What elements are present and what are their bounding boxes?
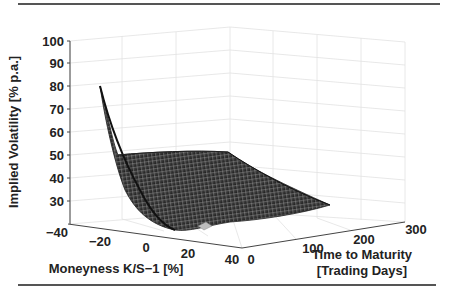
- y-axis-label-line1: Time to Maturity: [312, 247, 413, 262]
- z-tick-40: 40: [50, 171, 64, 186]
- x-tick-m20: −20: [89, 234, 111, 249]
- z-tick-90: 90: [50, 56, 64, 71]
- y-axis-label-line2: [Trading Days]: [317, 263, 407, 278]
- z-tick-30: 30: [50, 194, 64, 209]
- z-tick-100: 100: [42, 34, 64, 49]
- x-axis-label: Moneyness K/S−1 [%]: [49, 261, 184, 276]
- z-tick-60: 60: [50, 125, 64, 140]
- y-tick-300: 300: [405, 222, 427, 237]
- y-tick-0: 0: [247, 252, 254, 267]
- z-tick-70: 70: [50, 102, 64, 117]
- x-tick-40: 40: [225, 252, 239, 267]
- z-tick-50: 50: [50, 148, 64, 163]
- y-tick-200: 200: [353, 232, 375, 247]
- x-tick-0: 0: [142, 240, 149, 255]
- z-axis-label: Implied Volatility [% p.a.]: [6, 56, 21, 208]
- volatility-surface-chart: 100 90 80 70 60 50 40 30 −40 −20 0 20 40…: [0, 0, 452, 293]
- z-tick-80: 80: [50, 79, 64, 94]
- volatility-surface: [100, 86, 330, 230]
- x-tick-m40: −40: [46, 225, 68, 240]
- x-tick-20: 20: [181, 246, 195, 261]
- z-tick-labels: 100 90 80 70 60 50 40 30: [42, 34, 64, 209]
